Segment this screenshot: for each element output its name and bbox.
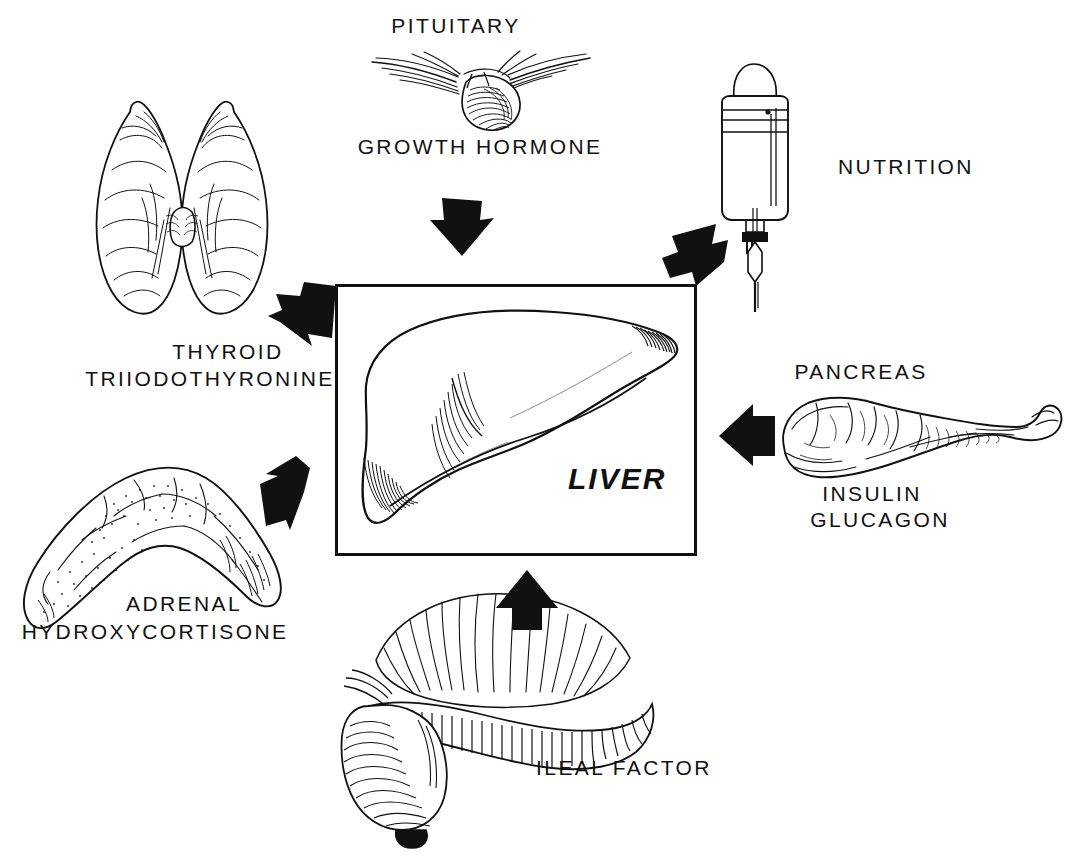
- insulin-label: INSULIN: [822, 482, 922, 507]
- arrow-up-right-icon: [252, 452, 320, 532]
- pancreas-label: PANCREAS: [794, 360, 927, 385]
- ileal-factor-label: ILEAL FACTOR: [536, 756, 712, 781]
- pancreas-illustration: [770, 385, 1066, 495]
- arrow-up-icon: [494, 568, 560, 632]
- triiodothyronine-label: TRIIODOTHYRONINE: [85, 367, 335, 392]
- arrow-left-pancreas-icon: [717, 402, 779, 468]
- figure-canvas: PITUITARY: [0, 0, 1072, 857]
- liver-label: LIVER: [568, 462, 666, 496]
- adrenal-label: ADRENAL: [126, 592, 242, 617]
- growth-hormone-label: GROWTH HORMONE: [358, 135, 603, 160]
- glucagon-label: GLUCAGON: [810, 508, 949, 533]
- arrow-left-icon: [266, 276, 340, 346]
- pituitary-gland-illustration: [360, 44, 600, 139]
- nutrition-label: NUTRITION: [838, 155, 974, 180]
- hydroxycortisone-label: HYDROXYCORTISONE: [22, 620, 289, 645]
- pituitary-label: PITUITARY: [391, 14, 520, 39]
- arrow-down-left-icon: [656, 222, 734, 290]
- liver-illustration: [340, 300, 692, 550]
- arrow-down-icon: [426, 196, 498, 258]
